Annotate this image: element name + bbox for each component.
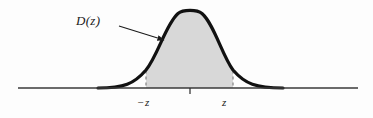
distribution-chart-canvas xyxy=(0,0,373,118)
upper-bound-label: z xyxy=(222,97,227,108)
lower-bound-label: −z xyxy=(137,97,150,108)
normal-distribution-figure: D(z) −z z xyxy=(0,0,373,118)
shaded-area-dz xyxy=(98,10,283,88)
area-label-dz: D(z) xyxy=(76,14,100,27)
annotation-arrow xyxy=(119,26,164,40)
